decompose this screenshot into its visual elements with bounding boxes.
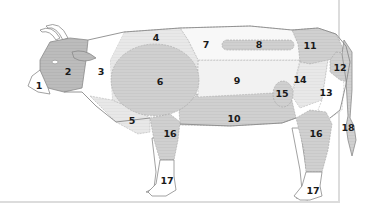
label-13: 13	[319, 87, 332, 98]
label-8: 8	[256, 39, 263, 50]
label-10: 10	[227, 113, 241, 124]
label-6: 6	[157, 76, 164, 87]
label-14: 14	[293, 74, 307, 85]
label-16-front: 16	[163, 128, 177, 139]
label-2: 2	[65, 66, 72, 77]
label-3: 3	[98, 66, 105, 77]
label-11: 11	[303, 40, 316, 51]
region-6	[111, 44, 199, 116]
label-15: 15	[275, 88, 288, 99]
label-18: 18	[341, 122, 355, 133]
label-5: 5	[129, 115, 136, 126]
label-17-front: 17	[160, 175, 173, 186]
label-1: 1	[36, 80, 43, 91]
label-17-hind: 17	[306, 185, 319, 196]
label-4: 4	[153, 32, 160, 43]
eye	[52, 60, 58, 64]
label-12: 12	[333, 62, 346, 73]
cow-cuts-diagram: 1 2 3 4 5 6 7 8 9 10 11 12 13 14 15 16 1…	[0, 0, 369, 213]
label-16-hind: 16	[309, 128, 323, 139]
label-7: 7	[203, 39, 210, 50]
label-9: 9	[234, 75, 241, 86]
